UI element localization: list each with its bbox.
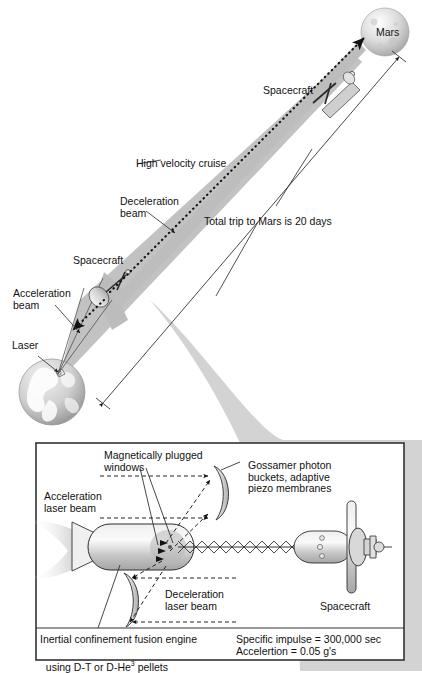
label-fusion-engine-line1: Inertial confinement fusion engine (40, 634, 197, 646)
label-magnetically-plugged-windows: Magnetically plugged windows (104, 450, 203, 473)
label-high-velocity-cruise: High velocity cruise (136, 158, 226, 170)
label-spacecraft-near: Spacecraft (73, 255, 123, 267)
cruise-corridor (112, 42, 366, 308)
label-total-trip: Total trip to Mars is 20 days (204, 216, 332, 228)
label-spacecraft-panel: Spacecraft (320, 601, 370, 613)
label-mars: Mars (376, 27, 399, 39)
label-gossamer-photon-buckets: Gossamer photon buckets, adaptive piezo … (248, 460, 331, 495)
total-trip-dimension (96, 51, 406, 409)
spec-acceleration: Accelertion = 0.05 g's (236, 646, 336, 658)
label-deceleration-beam: Deceleration beam (120, 196, 179, 219)
engine-pellets-suffix: pellets (135, 660, 168, 672)
label-acceleration-beam: Acceleration beam (13, 288, 71, 311)
earth-planet (19, 359, 85, 425)
label-acceleration-laser-beam: Acceleration laser beam (44, 491, 102, 514)
label-laser: Laser (12, 340, 38, 352)
engine-pellets-prefix: using D-T or D-He (46, 660, 131, 672)
label-fusion-engine-line2: using D-T or D-He3 pellets (40, 646, 168, 673)
label-deceleration-laser-beam: Deceleration laser beam (165, 589, 224, 612)
label-spacecraft-far: Spacecraft (263, 85, 313, 97)
spec-specific-impulse: Specific impulse = 300,000 sec (236, 634, 381, 646)
